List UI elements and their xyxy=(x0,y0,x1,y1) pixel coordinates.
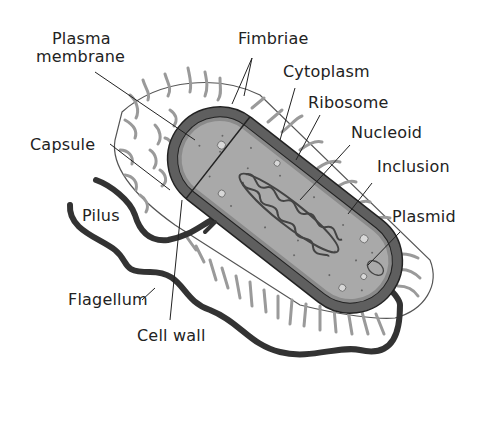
label-flagellum: Flagellum xyxy=(68,291,148,308)
label-nucleoid: Nucleoid xyxy=(351,124,422,141)
label-cytoplasm: Cytoplasm xyxy=(283,63,370,80)
label-plasma-membrane-1: Plasma xyxy=(52,30,111,47)
label-cell-wall: Cell wall xyxy=(137,327,206,344)
label-plasmid: Plasmid xyxy=(392,208,456,225)
label-plasma-membrane-2: membrane xyxy=(36,48,125,65)
label-pilus: Pilus xyxy=(82,207,120,224)
label-fimbriae: Fimbriae xyxy=(238,30,309,47)
label-capsule: Capsule xyxy=(30,136,95,153)
label-ribosome: Ribosome xyxy=(308,94,389,111)
label-inclusion: Inclusion xyxy=(377,158,450,175)
